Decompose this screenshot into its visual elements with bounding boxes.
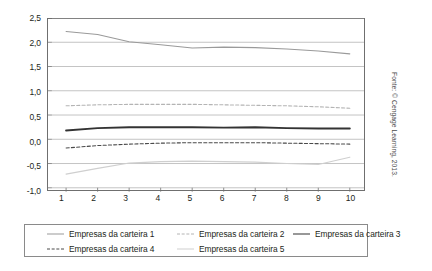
x-tick-label: 1 <box>59 193 64 203</box>
x-tick-label: 9 <box>316 193 321 203</box>
legend-item-5[interactable]: Empresas da carteira 5 <box>177 244 284 254</box>
y-tick-label: 2,5 <box>29 13 41 23</box>
legend-line-swatch-icon <box>47 230 64 238</box>
y-tick-label: -0,5 <box>27 161 41 171</box>
x-tick-label: 8 <box>284 193 289 203</box>
series-line-5 <box>66 157 350 174</box>
series-line-2 <box>66 104 350 108</box>
legend-item-label: Empresas da carteira 1 <box>69 229 154 239</box>
legend-row-2: Empresas da carteira 4Empresas da cartei… <box>25 241 367 257</box>
legend-item-label: Empresas da carteira 4 <box>69 244 154 254</box>
x-tick-label: 2 <box>91 193 96 203</box>
x-tick-label: 5 <box>188 193 193 203</box>
y-axis-tick-labels: 2,52,01,51,00,50,0-0,5-1,0 <box>0 18 45 191</box>
y-tick-label: 0,0 <box>29 137 41 147</box>
y-tick-label: 1,0 <box>29 87 41 97</box>
y-tick-label: 0,5 <box>29 112 41 122</box>
x-tick-label: 6 <box>220 193 225 203</box>
x-tick-label: 3 <box>123 193 128 203</box>
chart-legend: Empresas da carteira 1Empresas da cartei… <box>24 224 368 257</box>
y-tick-label: 2,0 <box>29 38 41 48</box>
legend-line-swatch-icon <box>177 245 194 253</box>
legend-line-swatch-icon <box>293 230 310 238</box>
x-tick-label: 10 <box>346 193 355 203</box>
legend-item-label: Empresas da carteira 5 <box>199 244 284 254</box>
legend-item-4[interactable]: Empresas da carteira 4 <box>47 244 154 254</box>
plot-area <box>47 18 365 191</box>
legend-line-swatch-icon <box>177 230 194 238</box>
legend-item-label: Empresas da carteira 3 <box>315 229 400 239</box>
x-tick-label: 4 <box>155 193 160 203</box>
legend-item-2[interactable]: Empresas da carteira 2 <box>177 229 284 239</box>
legend-item-label: Empresas da carteira 2 <box>199 229 284 239</box>
y-tick-label: 1,5 <box>29 62 41 72</box>
x-tick-label: 7 <box>252 193 257 203</box>
legend-item-3[interactable]: Empresas da carteira 3 <box>293 229 400 239</box>
series-line-3 <box>66 127 350 130</box>
chart-canvas <box>47 18 365 194</box>
series-line-1 <box>66 32 350 54</box>
legend-row-1: Empresas da carteira 1Empresas da cartei… <box>25 226 367 242</box>
legend-line-swatch-icon <box>47 245 64 253</box>
x-axis-tick-labels: 12345678910 <box>47 193 365 209</box>
line-chart-figure: 2,52,01,51,00,50,0-0,5-1,0 12345678910 E… <box>0 0 432 271</box>
y-tick-label: -1,0 <box>27 186 41 196</box>
source-note: Fonte: © Cengage Learning, 2013. <box>391 72 398 177</box>
series-line-4 <box>66 143 350 148</box>
legend-item-1[interactable]: Empresas da carteira 1 <box>47 229 154 239</box>
